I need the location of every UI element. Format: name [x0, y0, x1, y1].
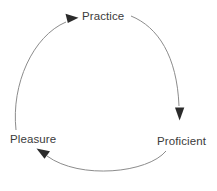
cycle-diagram: Practice Proficient Pleasure: [0, 0, 217, 191]
node-label-pleasure: Pleasure: [10, 133, 56, 146]
arrow-practice-to-proficient: [131, 16, 179, 106]
arrow-pleasure-to-practice: [15, 22, 66, 130]
cycle-arrows-svg: [0, 0, 217, 191]
arrowhead-to-practice: [66, 14, 79, 23]
arrow-proficient-to-pleasure: [47, 151, 166, 171]
arrowhead-to-proficient: [175, 108, 184, 121]
node-label-proficient: Proficient: [157, 135, 206, 148]
node-label-practice: Practice: [82, 10, 124, 23]
